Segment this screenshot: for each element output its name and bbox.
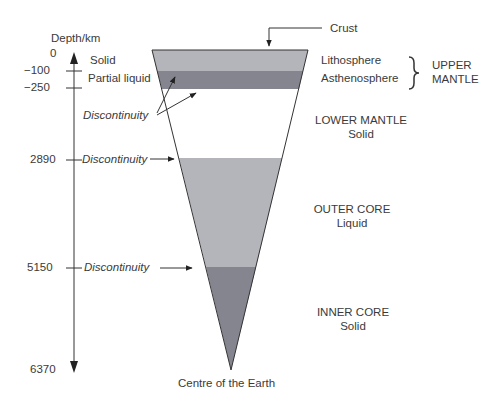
upper-mantle-label-2: MANTLE [432,73,479,85]
solid-label: Solid [90,54,116,66]
tick-5150: 5150 [27,261,53,273]
tick-2890: 2890 [30,153,56,165]
inner-core-band [206,267,256,370]
upper-mantle-brace [409,57,419,89]
discontinuity-2890-label: Discontinuity [82,153,147,165]
tick-250: −250 [24,81,50,93]
upper-mantle-label-1: UPPER [432,59,472,71]
discontinuity-5150-label: Discontinuity [84,261,149,273]
lower-mantle-state: Solid [302,128,420,140]
asthenosphere-band [157,71,303,89]
tick-0: 0 [50,47,56,59]
inner-core-state: Solid [305,320,401,332]
crust-pointer [269,28,322,46]
inner-core-label: INNER CORE [305,306,401,318]
asthenosphere-label: Asthenosphere [321,72,398,84]
lower-mantle-label: LOWER MANTLE [302,114,420,126]
axis-title: Depth/km [51,32,100,44]
lithosphere-band [152,50,308,71]
lithosphere-label: Lithosphere [321,54,381,66]
tick-100: −100 [24,64,50,76]
lower-mantle-band [162,89,299,158]
outer-core-state: Liquid [302,217,402,229]
axis-arrow-up-icon [70,52,78,64]
outer-core-band [179,158,282,267]
axis-arrow-down-icon [70,361,78,373]
partial-liquid-label: Partial liquid [88,72,151,84]
earth-layers-diagram [0,0,503,414]
crust-label: Crust [330,22,357,34]
centre-label: Centre of the Earth [178,377,275,389]
tick-6370: 6370 [30,363,56,375]
outer-core-label: OUTER CORE [302,203,402,215]
discontinuity-upper-label: Discontinuity [83,109,148,121]
